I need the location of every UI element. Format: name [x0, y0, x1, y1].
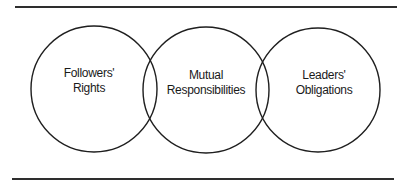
label-line: Leaders' — [296, 68, 353, 83]
label-leaders-obligations: Leaders' Obligations — [296, 68, 353, 98]
label-line: Followers' — [64, 66, 115, 81]
label-line: Rights — [64, 81, 115, 96]
label-line: Responsibilities — [167, 83, 246, 98]
venn-diagram: Followers' Rights Mutual Responsibilitie… — [0, 0, 411, 186]
label-line: Mutual — [167, 68, 246, 83]
label-line: Obligations — [296, 83, 353, 98]
bottom-rule — [12, 178, 394, 180]
label-followers-rights: Followers' Rights — [64, 66, 115, 96]
label-mutual-responsibilities: Mutual Responsibilities — [167, 68, 246, 98]
